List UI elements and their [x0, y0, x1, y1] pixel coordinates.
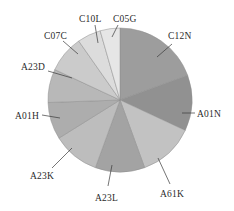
pie-chart-figure: C12NA01NA61KA23LA23KA01HA23DC07CC10LC05G: [0, 0, 234, 211]
pie-label-a61k: A61K: [160, 190, 184, 200]
pie-label-c07c: C07C: [44, 32, 67, 42]
pie-label-a23l: A23L: [95, 194, 118, 204]
pie-label-a01h: A01H: [15, 112, 39, 122]
pie-label-c10l: C10L: [79, 15, 101, 25]
leader-line-a23k: [52, 148, 72, 168]
pie-label-c12n: C12N: [168, 32, 192, 42]
pie-label-c05g: C05G: [113, 15, 137, 25]
leader-line-a61k: [158, 158, 170, 184]
pie-label-a23k: A23K: [30, 172, 54, 182]
pie-label-a01n: A01N: [197, 110, 221, 120]
pie-label-a23d: A23D: [21, 63, 45, 73]
